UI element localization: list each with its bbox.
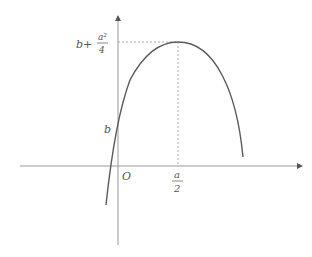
vertex-y-numerator: a² — [98, 32, 107, 42]
vertex-y-denominator: 4 — [98, 45, 105, 55]
parabola-diagram: b+ a² 4 b O a 2 — [0, 0, 312, 257]
vertex-x-numerator: a — [174, 169, 180, 180]
vertex-x-denominator: 2 — [173, 183, 180, 194]
vertex-y-prefix: b+ — [76, 38, 92, 51]
y-intercept-label: b — [104, 123, 111, 136]
origin-label: O — [122, 170, 131, 183]
